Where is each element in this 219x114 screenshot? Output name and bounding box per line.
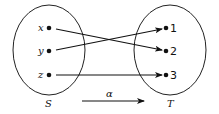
- domain-elements: x y z: [37, 22, 51, 80]
- element-3: 3: [170, 69, 177, 82]
- mapping-diagram: x y z 1 2 3 S T α: [0, 0, 219, 114]
- codomain-elements: 1 2 3: [164, 22, 177, 82]
- element-y: y: [37, 45, 44, 56]
- element-2: 2: [170, 45, 177, 58]
- element-1: 1: [170, 22, 177, 35]
- set-s-label: S: [45, 98, 52, 109]
- element-x: x: [38, 22, 44, 33]
- element-z: z: [37, 69, 44, 80]
- mapping-label-alpha: α: [106, 88, 113, 99]
- mapping-arrows: [56, 29, 162, 75]
- set-t-label: T: [167, 98, 175, 109]
